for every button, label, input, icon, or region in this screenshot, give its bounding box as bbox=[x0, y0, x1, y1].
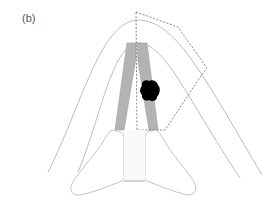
larynx-diagram bbox=[0, 0, 272, 206]
right-arytenoid bbox=[145, 130, 196, 195]
lesion bbox=[140, 80, 160, 101]
left-vocal-fold bbox=[115, 43, 136, 130]
left-arytenoid bbox=[71, 130, 124, 195]
posterior-commissure bbox=[124, 130, 145, 182]
